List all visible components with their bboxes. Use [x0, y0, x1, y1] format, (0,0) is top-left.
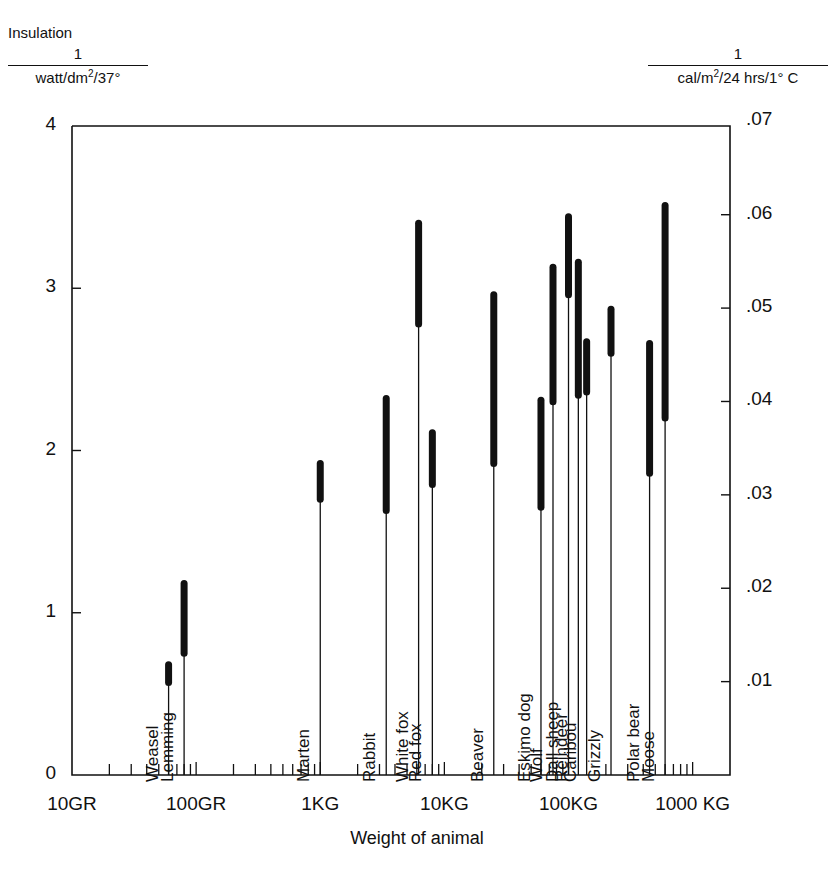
animal-label: Grizzly: [585, 730, 605, 782]
bar-group: [169, 206, 666, 775]
left-tick-label: 4: [22, 113, 56, 135]
left-tick-label: 0: [22, 762, 56, 784]
right-axis-ticks: [721, 215, 730, 682]
animal-label: Rabbit: [360, 733, 380, 782]
x-tick-label: 100KG: [504, 793, 634, 815]
right-tick-label: .01: [746, 669, 806, 691]
animal-label: Beaver: [468, 728, 488, 782]
left-tick-label: 1: [22, 600, 56, 622]
insulation-weight-figure: Insulation 1 watt/dm2/37° 1 cal/m2/24 hr…: [0, 0, 834, 875]
right-tick-label: .04: [746, 388, 806, 410]
left-axis-ticks: [72, 288, 81, 613]
animal-label: Caribou: [561, 722, 581, 782]
right-tick-label: .05: [746, 295, 806, 317]
right-tick-label: .02: [746, 575, 806, 597]
x-axis-title: Weight of animal: [0, 828, 834, 849]
animal-label: Moose: [639, 731, 659, 782]
animal-label: Marten: [294, 729, 314, 782]
x-tick-label: 100GR: [131, 793, 261, 815]
x-tick-label: 10GR: [7, 793, 137, 815]
left-tick-label: 2: [22, 438, 56, 460]
x-tick-label: 1KG: [255, 793, 385, 815]
right-tick-label: .03: [746, 482, 806, 504]
animal-label: Lemming: [158, 712, 178, 782]
right-tick-label: .07: [746, 108, 806, 130]
left-tick-label: 3: [22, 275, 56, 297]
x-tick-label: 1000 KG: [628, 793, 758, 815]
animal-label: Red fox: [406, 723, 426, 782]
right-tick-label: .06: [746, 202, 806, 224]
x-tick-label: 10KG: [379, 793, 509, 815]
